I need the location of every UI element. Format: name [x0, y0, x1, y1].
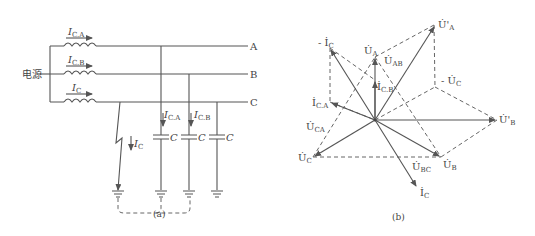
- ct-current-a-label: IC.A: [67, 26, 85, 39]
- label-neg-uc-prime: - U̇C: [441, 75, 461, 88]
- label-uca: U̇CA: [306, 121, 326, 134]
- phasor-diagram: U̇'A U̇A U̇AB - İC - U̇C U̇'B U̇B U̇C İC…: [298, 19, 515, 222]
- fault-current-label: IC: [133, 138, 143, 151]
- vector-ua-prime: [375, 27, 434, 120]
- ct-coil-b: [64, 71, 96, 74]
- circuit-diagram: 电源 A B C IC.A IC.B IC IC.A IC.B IC C C C…: [22, 26, 258, 219]
- branch-current-b-label: IC.B: [193, 109, 210, 122]
- uab-line: [375, 57, 441, 157]
- capacitor-b-label: C: [198, 132, 206, 143]
- label-neg-ic: - İC: [318, 37, 334, 50]
- ct-current-c-label: IC: [71, 82, 81, 95]
- caption-b: (b): [392, 212, 405, 222]
- label-ua: U̇A: [364, 45, 378, 58]
- label-ubc: U̇BC: [412, 161, 431, 174]
- label-icb: İC.B: [377, 81, 393, 94]
- label-uc: U̇C: [298, 152, 312, 165]
- phase-label-b: B: [250, 69, 257, 80]
- capacitor-b: [180, 135, 198, 139]
- ground-fault: [116, 102, 122, 190]
- phase-label-c: C: [250, 97, 258, 108]
- label-ub-prime: U̇'B: [499, 114, 515, 127]
- diagram-canvas: 电源 A B C IC.A IC.B IC IC.A IC.B IC C C C…: [0, 0, 535, 236]
- capacitor-c-label: C: [226, 132, 234, 143]
- ground-symbols: [112, 191, 223, 197]
- label-ic: İC: [420, 187, 429, 200]
- ct-coil-c: [64, 99, 96, 102]
- label-ua-prime: U̇'A: [438, 19, 455, 32]
- ct-current-b-label: IC.B: [67, 54, 84, 67]
- label-ub: U̇B: [443, 159, 457, 172]
- capacitor-a: [152, 135, 170, 139]
- capacitor-a-label: C: [170, 132, 178, 143]
- vector-neg-ic: [331, 50, 375, 120]
- caption-a: (a): [153, 209, 165, 219]
- vector-ic: [375, 120, 416, 186]
- ct-coil-a: [64, 43, 96, 46]
- branch-current-a-label: IC.A: [163, 109, 181, 122]
- label-ica: İC.A: [312, 97, 329, 110]
- capacitor-c: [208, 135, 226, 139]
- label-uab: U̇AB: [384, 55, 403, 68]
- vector-ub: [375, 120, 439, 156]
- vector-ica: [332, 103, 375, 120]
- phase-label-a: A: [249, 41, 258, 52]
- source-label: 电源: [22, 68, 42, 80]
